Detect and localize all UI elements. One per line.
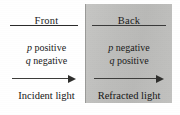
panel-front-caption-label: Incident light [7, 90, 86, 102]
incident-light-arrow-icon [12, 74, 76, 83]
panel-front-caption: Incident light [7, 90, 86, 102]
optics-sign-convention-figure: Front p positive q negative Incident lig… [0, 0, 180, 115]
refracted-light-arrow-icon [94, 74, 164, 83]
panel-back-heading-rule [92, 25, 166, 26]
sign-line-p-back: p negative [86, 41, 172, 54]
arrow-shaft [12, 78, 69, 79]
sign-word-q: negative [33, 55, 67, 66]
arrow-head [156, 75, 164, 83]
panel-back-sign-list: p negative q positive [86, 41, 172, 67]
sign-word-p: positive [34, 42, 66, 53]
surface-boundary-divider [85, 4, 86, 103]
panel-front-sign-list: p positive q negative [7, 41, 86, 67]
sign-word-p: negative [116, 42, 150, 53]
panel-back: Back p negative q positive Refracted lig… [86, 4, 172, 103]
panel-back-caption: Refracted light [86, 90, 172, 102]
variable-p: p [27, 42, 32, 53]
panel-back-caption-label: Refracted light [86, 90, 172, 102]
panel-front: Front p positive q negative Incident lig… [7, 4, 86, 103]
variable-q: q [26, 55, 31, 66]
sign-word-q: positive [117, 55, 149, 66]
arrow-head [68, 75, 76, 83]
sign-line-q-back: q positive [86, 54, 172, 67]
arrow-shaft [94, 78, 157, 79]
sign-line-q-front: q negative [7, 54, 86, 67]
sign-line-p-front: p positive [7, 41, 86, 54]
variable-q: q [109, 55, 114, 66]
panel-front-heading-rule [10, 25, 78, 26]
variable-p: p [108, 42, 113, 53]
